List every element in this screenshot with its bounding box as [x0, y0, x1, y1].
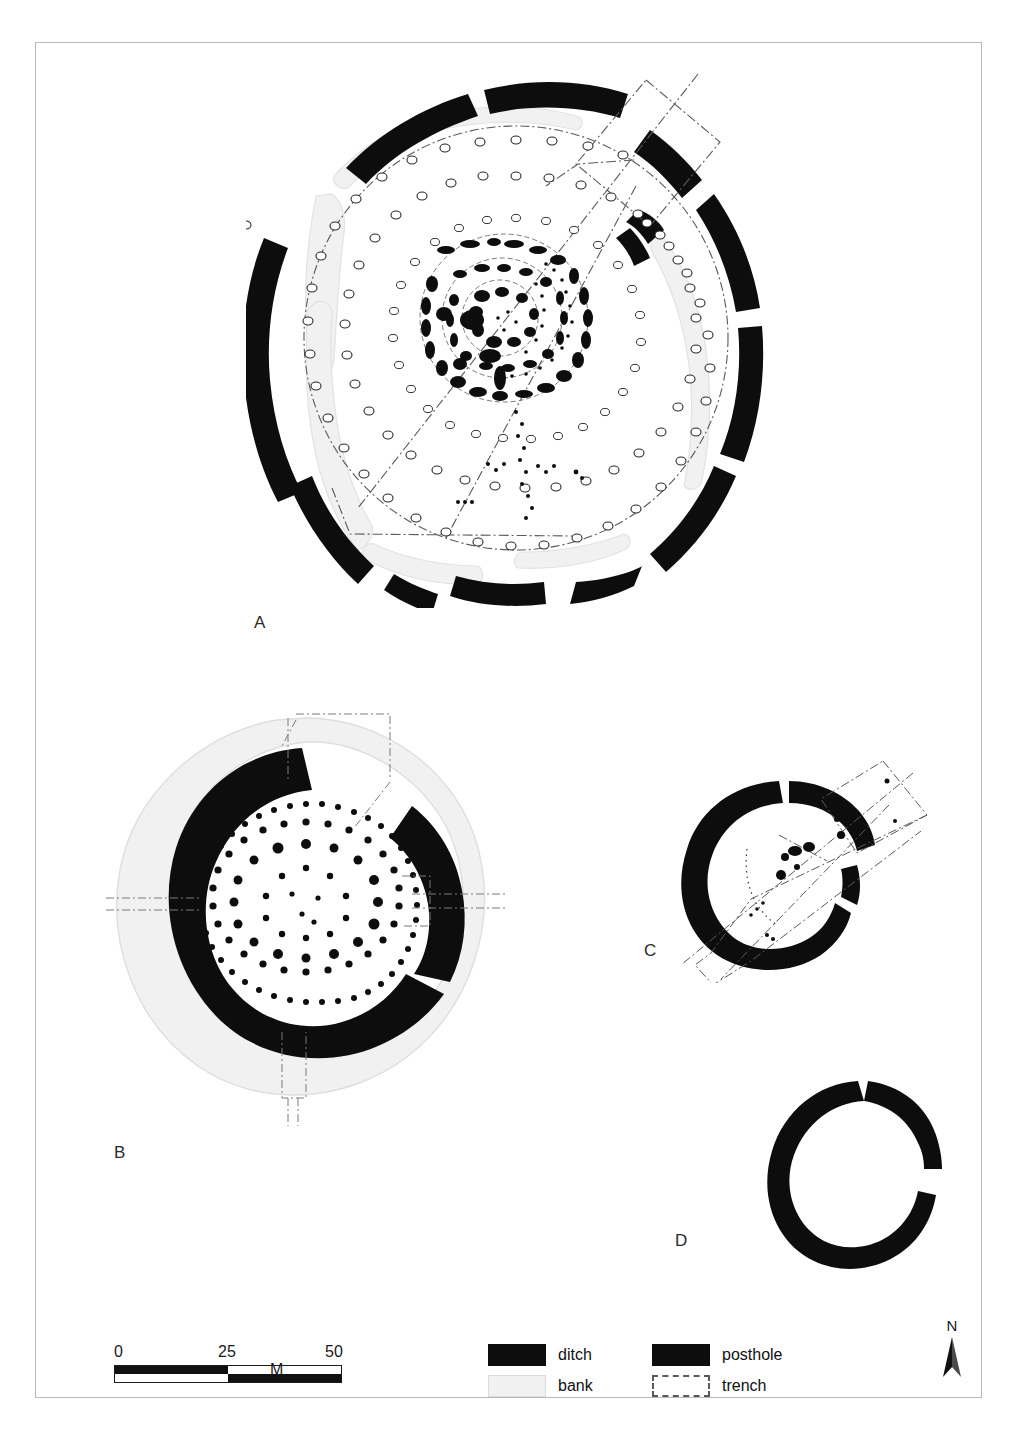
plan-b-posthole-field: [198, 801, 420, 1005]
ditch-segment: [246, 238, 302, 502]
legend-swatch-ditch: [488, 1344, 546, 1366]
ditch-segment: [570, 566, 642, 604]
panel-label-b: B: [114, 1143, 126, 1163]
ditch-segment: [634, 130, 702, 198]
figure-caption: [40, 1424, 975, 1438]
plan-a-avenue-postholes: [456, 410, 584, 520]
legend: ditch posthole bank trench: [488, 1339, 783, 1401]
scale-bar-cell: [115, 1366, 228, 1374]
legend-swatch-bank: [488, 1375, 546, 1397]
legend-swatch-trench: [652, 1375, 710, 1397]
ditch-segment: [864, 1081, 942, 1169]
trench-centerline: [446, 186, 636, 538]
panel-label-c: C: [644, 941, 657, 961]
ditch-segment: [346, 94, 478, 184]
bank-arc: [363, 544, 483, 585]
plan-b-henge-diagram: [106, 698, 506, 1128]
north-arrow: N: [930, 1319, 974, 1383]
plan-a-henge-diagram: [246, 68, 806, 608]
north-arrow-icon: [939, 1335, 965, 1379]
scale-tick-50: 50: [325, 1343, 343, 1361]
plan-c-henge-diagram: [651, 753, 951, 983]
scale-bar-graphic: [114, 1365, 342, 1383]
legend-label-bank: bank: [558, 1377, 644, 1395]
legend-label-trench: trench: [722, 1377, 783, 1395]
scale-tick-25: 25: [218, 1343, 236, 1361]
legend-swatch-posthole: [652, 1344, 710, 1366]
panel-label-a: A: [254, 613, 266, 633]
ditch-segment: [720, 326, 763, 462]
panel-label-d: D: [675, 1231, 688, 1251]
scale-bar-unit: M: [270, 1361, 283, 1379]
plan-d-ditch-group: [767, 1081, 942, 1269]
figure-frame: A B C D 0 25 50 M ditch posthole bank: [35, 42, 982, 1398]
scale-tick-0: 0: [114, 1343, 123, 1361]
trench-connector: [354, 782, 390, 828]
legend-label-ditch: ditch: [558, 1346, 644, 1364]
bank-arc: [651, 235, 710, 489]
scale-bar-cell: [228, 1374, 341, 1382]
north-arrow-letter: N: [930, 1319, 974, 1333]
trench-outline: [546, 160, 634, 186]
ditch-segment: [450, 576, 546, 606]
scale-bar-ticks: 0 25 50: [114, 1343, 342, 1365]
legend-label-posthole: posthole: [722, 1346, 783, 1364]
plan-d-henge-diagram: [756, 1073, 956, 1273]
ditch-segment: [696, 194, 760, 312]
scale-bar: 0 25 50: [114, 1343, 342, 1383]
figure-page: A B C D 0 25 50 M ditch posthole bank: [0, 0, 1015, 1438]
